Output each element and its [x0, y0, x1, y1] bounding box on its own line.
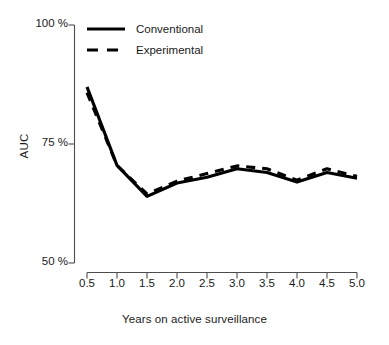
data-series-layer	[87, 87, 357, 196]
chart-figure: AUC 50 %75 %100 % 0.51.01.52.02.53.03.54…	[0, 0, 389, 345]
series-line-experimental	[87, 93, 357, 194]
series-line-conventional	[87, 87, 357, 196]
plot-area	[0, 0, 389, 345]
